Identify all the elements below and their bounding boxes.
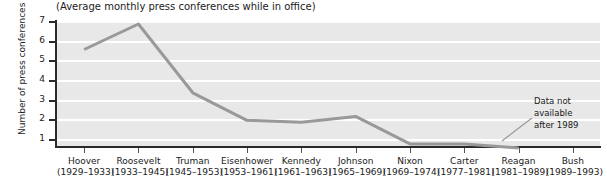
press-conference-line-chart: (Average monthly press conferences while… [0,0,607,190]
y-axis-tick-label: 1 [0,133,45,143]
gridline [57,80,600,82]
gridline [57,139,600,141]
y-axis-tick [49,80,55,82]
y-axis-tick-label: 7 [0,15,45,25]
y-axis-line [55,20,57,147]
annotation-line-3: after 1989 [534,119,578,131]
x-axis-tick [193,148,194,153]
data-not-available-annotation: Data not available after 1989 [534,95,578,131]
y-axis-tick-label: 5 [0,54,45,64]
x-axis-label-hoover: Hoover(1929–1933) [57,156,111,178]
x-axis-label-reagan: Reagan(1981–1989) [491,156,545,178]
x-axis-label-truman: Truman(1945–1953) [166,156,220,178]
x-axis-tick [138,148,139,153]
y-axis-tick [49,60,55,62]
x-axis-tick [573,148,574,153]
x-axis-label-years: (1965–1969) [329,167,383,178]
x-axis-label-years: (1953–1961) [220,167,274,178]
x-axis-label-years: (1933–1945) [111,167,165,178]
x-axis-label-name: Eisenhower [220,156,274,167]
x-axis-label-name: Nixon [383,156,437,167]
gridline [57,60,600,62]
x-axis-label-kennedy: Kennedy(1961–1963) [274,156,328,178]
y-axis-tick [49,41,55,43]
y-axis-tick [49,139,55,141]
x-axis-label-name: Roosevelt [111,156,165,167]
y-axis-tick [49,100,55,102]
x-axis-label-years: (1929–1933) [57,167,111,178]
x-axis-label-bush: Bush(1989–1993) [546,156,600,178]
x-axis-label-name: Carter [437,156,491,167]
x-axis-label-eisenhower: Eisenhower(1953–1961) [220,156,274,178]
y-axis-tick [49,21,55,23]
y-axis-tick-label: 4 [0,74,45,84]
x-axis-label-name: Hoover [57,156,111,167]
x-axis-label-carter: Carter(1977–1981) [437,156,491,178]
x-axis-label-name: Kennedy [274,156,328,167]
gridline [57,21,600,23]
x-axis-tick [301,148,302,153]
x-axis-label-roosevelt: Roosevelt(1933–1945) [111,156,165,178]
x-axis-label-name: Truman [166,156,220,167]
y-axis-tick-label: 3 [0,94,45,104]
x-axis-label-nixon: Nixon(1969–1974) [383,156,437,178]
annotation-line-2: available [534,107,578,119]
chart-title: (Average monthly press conferences while… [56,1,316,12]
x-axis-label-name: Johnson [329,156,383,167]
x-axis-label-name: Reagan [491,156,545,167]
x-axis-tick [247,148,248,153]
y-axis-tick-label: 6 [0,35,45,45]
gridline [57,119,600,121]
x-axis-label-years: (1989–1993) [546,167,600,178]
y-axis-tick-label: 2 [0,113,45,123]
gridline [57,100,600,102]
plot-area [57,21,600,146]
x-axis-label-years: (1969–1974) [383,167,437,178]
x-axis-label-years: (1977–1981) [437,167,491,178]
annotation-line-1: Data not [534,95,578,107]
x-axis-tick [84,148,85,153]
x-axis-tick [519,148,520,153]
x-axis-label-years: (1945–1953) [166,167,220,178]
x-axis-label-name: Bush [546,156,600,167]
x-axis-tick [356,148,357,153]
x-axis-tick [464,148,465,153]
x-axis-label-years: (1981–1989) [491,167,545,178]
x-axis-label-johnson: Johnson(1965–1969) [329,156,383,178]
gridline [57,41,600,43]
y-axis-tick [49,119,55,121]
x-axis-tick [410,148,411,153]
x-axis-label-years: (1961–1963) [274,167,328,178]
